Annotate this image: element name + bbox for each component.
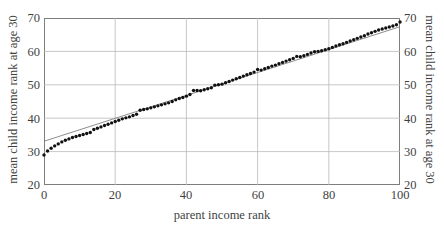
x-tick-40: 40 bbox=[166, 189, 206, 202]
plot-canvas bbox=[44, 18, 400, 185]
y-tick-left-30: 30 bbox=[18, 146, 40, 159]
y-tick-left-50: 50 bbox=[18, 79, 40, 92]
y-tick-left-60: 60 bbox=[18, 46, 40, 59]
x-tick-60: 60 bbox=[238, 189, 278, 202]
y-axis-title-right: mean child income rank at age 30 bbox=[422, 15, 437, 185]
chart-title bbox=[0, 0, 444, 1]
chart-container: 70 60 50 40 30 20 70 60 50 40 30 20 0 20… bbox=[0, 0, 444, 231]
x-tick-100: 100 bbox=[380, 189, 420, 202]
scatter-points bbox=[42, 20, 401, 156]
y-tick-left-40: 40 bbox=[18, 113, 40, 126]
y-axis-title-left: mean child income rank at age 30 bbox=[6, 15, 21, 185]
x-tick-0: 0 bbox=[24, 189, 64, 202]
y-tick-left-70: 70 bbox=[18, 12, 40, 25]
x-tick-80: 80 bbox=[309, 189, 349, 202]
x-axis-title: parent income rank bbox=[0, 208, 444, 223]
x-tick-20: 20 bbox=[95, 189, 135, 202]
